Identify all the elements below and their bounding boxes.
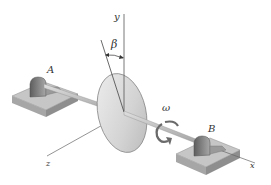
label-y-axis: y <box>113 11 120 22</box>
label-omega: ω <box>162 102 170 113</box>
label-x-axis: x <box>250 161 255 170</box>
beta-arrowhead-right <box>119 55 124 59</box>
label-bearing-a: A <box>46 64 54 75</box>
bearing-a <box>12 77 78 117</box>
bearing-b-pillow-block <box>194 136 210 156</box>
label-bearing-b: B <box>207 123 215 134</box>
beta-angle-indicator <box>105 53 124 59</box>
bearing-a-pillow-block <box>30 77 46 97</box>
disk <box>90 69 154 157</box>
omega-curl-top <box>165 122 178 127</box>
label-beta: β <box>110 38 117 51</box>
diagram-canvas: y β A ω B z x <box>0 0 271 185</box>
label-z-axis: z <box>45 159 51 168</box>
